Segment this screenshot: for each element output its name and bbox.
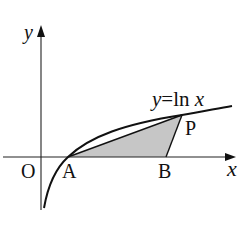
equation-ln: ln (173, 87, 189, 111)
y-axis-arrow-icon (37, 25, 45, 37)
origin-label: O (21, 161, 35, 181)
x-axis-label: x (227, 158, 237, 180)
y-axis-label: y (24, 22, 33, 42)
diagram-figure: y x O A B P y=ln x (0, 0, 252, 239)
point-B-label: B (158, 161, 171, 181)
equation-equals: = (161, 87, 173, 111)
point-A-label: A (62, 161, 76, 181)
equation-x: x (195, 87, 204, 111)
point-P-label: P (185, 118, 196, 138)
equation-label: y=ln x (152, 89, 204, 110)
equation-y: y (152, 87, 161, 111)
